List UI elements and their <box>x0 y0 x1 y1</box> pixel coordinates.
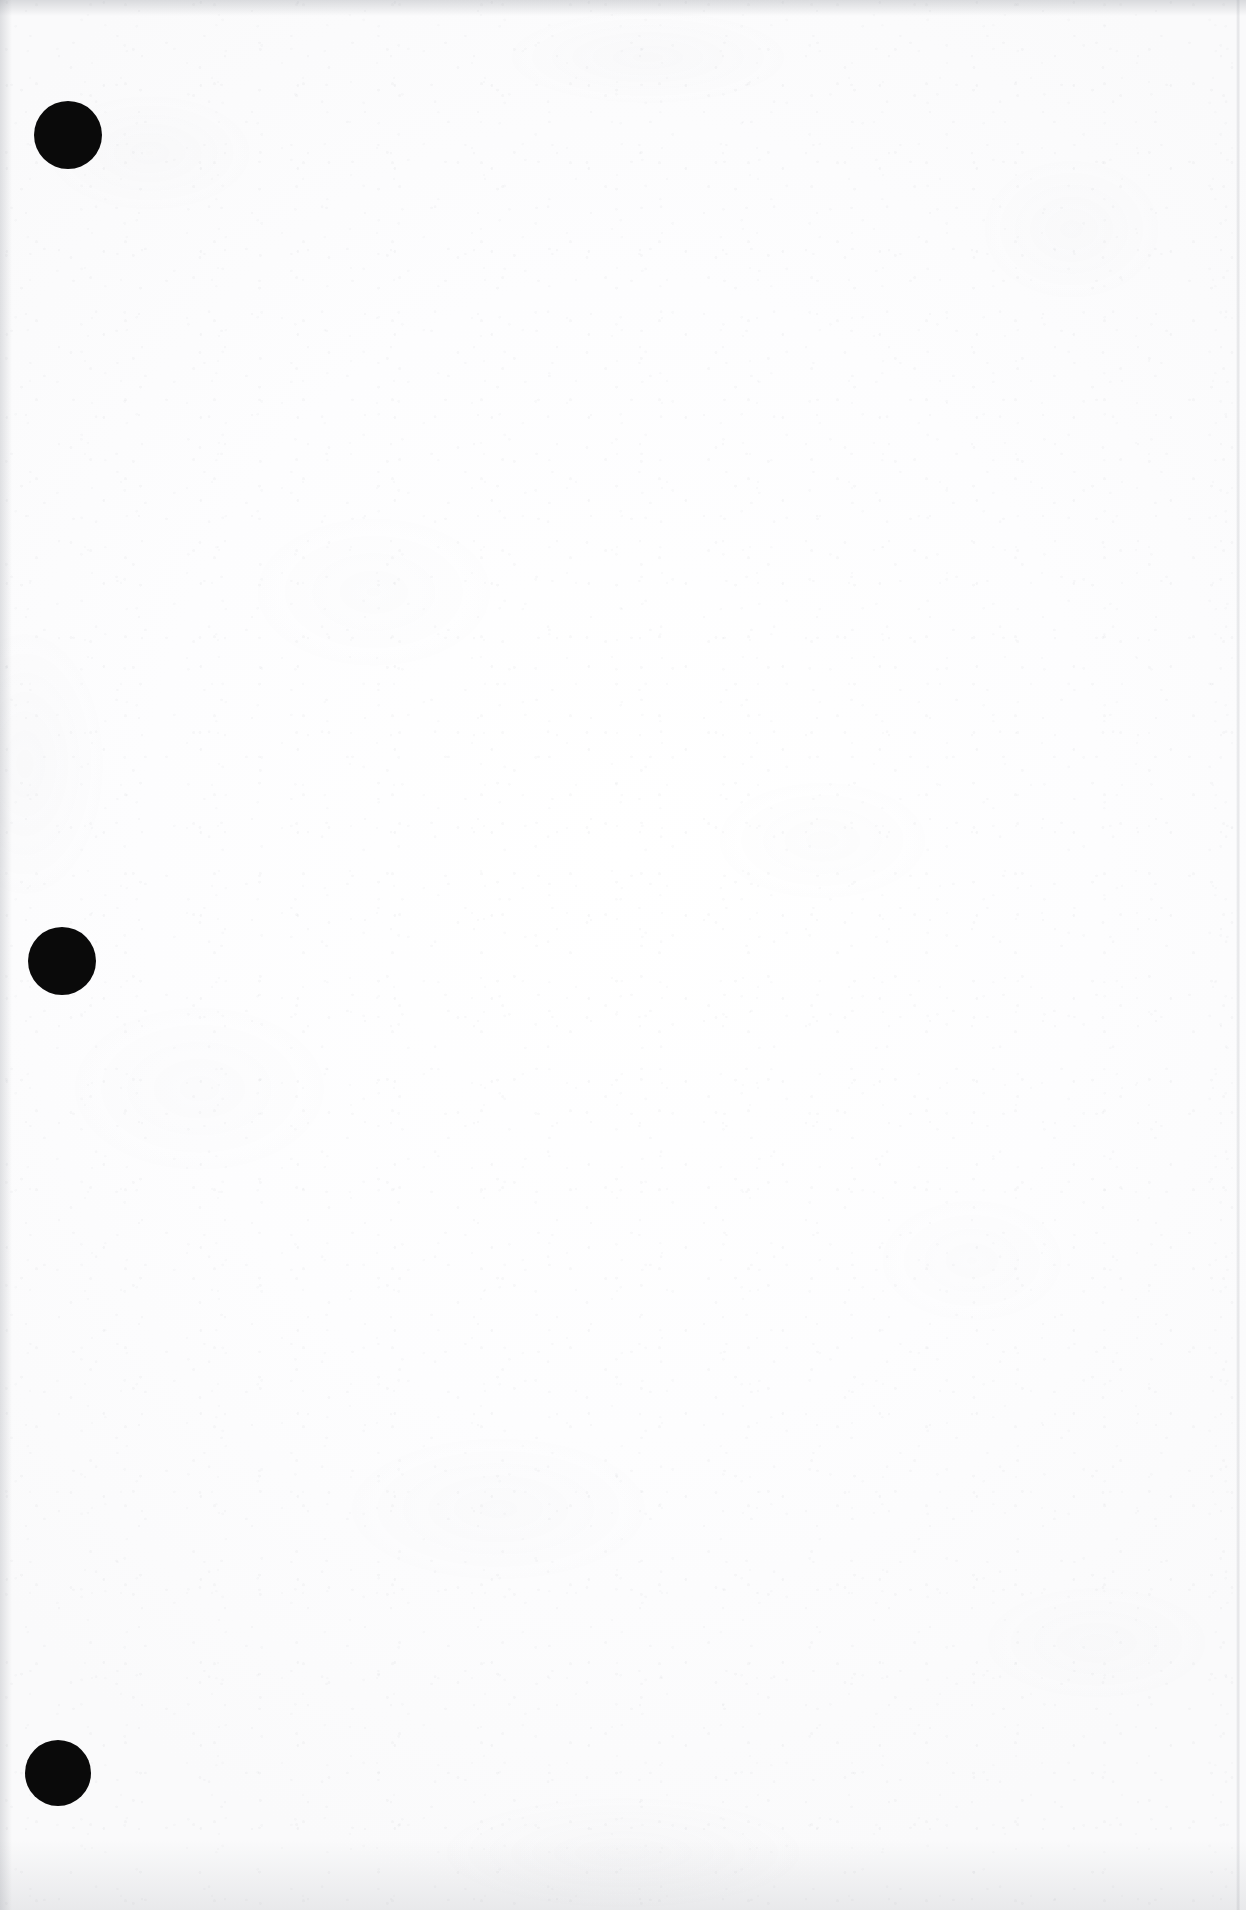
paper-speckle-texture <box>0 0 1246 1910</box>
hole-punch-mark-top <box>34 101 102 169</box>
hole-punch-mark-bottom <box>25 1740 91 1806</box>
hole-punch-mark-middle <box>28 927 96 995</box>
scanned-page <box>0 0 1246 1910</box>
